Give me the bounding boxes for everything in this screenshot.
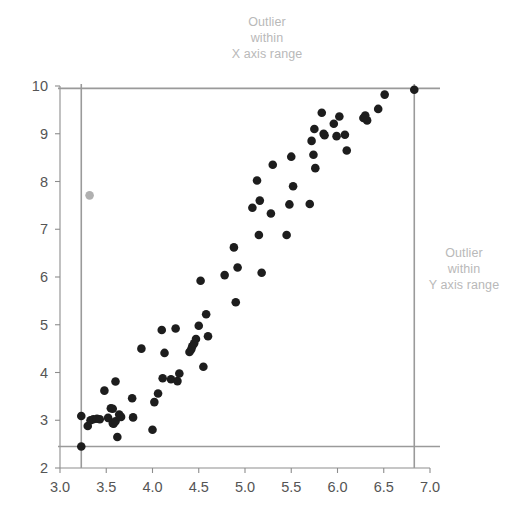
data-point-data-30 xyxy=(175,369,184,378)
data-point-data-26 xyxy=(160,349,169,358)
data-point-data-7 xyxy=(100,386,109,395)
data-point-data-65 xyxy=(332,132,341,141)
data-point-data-73 xyxy=(380,90,389,99)
data-point-data-1 xyxy=(77,442,86,451)
data-point-data-67 xyxy=(341,130,350,139)
data-points-group xyxy=(77,86,419,451)
data-point-data-15 xyxy=(113,433,122,442)
plot-area xyxy=(0,0,520,518)
y-tick-label-4: 6 xyxy=(18,270,48,285)
scatter-plot-figure: Outlier within X axis range Outlier with… xyxy=(0,0,520,518)
data-point-data-47 xyxy=(255,231,264,240)
data-point-data-39 xyxy=(202,310,211,319)
data-point-data-6 xyxy=(95,415,104,424)
x-tick-label-7: 6.5 xyxy=(364,480,404,495)
data-point-data-72 xyxy=(374,105,383,114)
data-point-data-59 xyxy=(310,125,319,134)
data-point-data-20 xyxy=(137,344,146,353)
data-point-data-38 xyxy=(199,362,208,371)
data-point-data-10 xyxy=(108,404,117,413)
data-point-data-57 xyxy=(307,137,316,146)
data-point-data-41 xyxy=(220,271,229,280)
data-point-data-46 xyxy=(253,176,262,185)
x-tick-label-6: 6.0 xyxy=(318,480,358,495)
data-point-data-17 xyxy=(117,413,126,422)
data-point-data-63 xyxy=(320,131,329,140)
data-point-data-36 xyxy=(194,321,203,330)
y-tick-label-2: 4 xyxy=(18,366,48,381)
data-point-data-18 xyxy=(128,394,137,403)
x-tick-label-8: 7.0 xyxy=(410,480,450,495)
data-point-data-19 xyxy=(129,413,138,422)
data-point-data-21 xyxy=(148,426,157,435)
x-tick-label-2: 4.0 xyxy=(133,480,173,495)
y-tick-label-8: 10 xyxy=(18,79,48,94)
data-point-data-25 xyxy=(158,374,167,383)
data-point-data-49 xyxy=(257,268,266,277)
data-point-data-28 xyxy=(171,324,180,333)
data-point-data-22 xyxy=(150,398,159,407)
x-tick-label-4: 5.0 xyxy=(225,480,265,495)
data-point-data-61 xyxy=(317,108,326,117)
data-point-data-29 xyxy=(173,377,182,386)
data-point-data-55 xyxy=(289,182,298,191)
data-point-data-42 xyxy=(230,243,239,252)
data-point-data-64 xyxy=(330,119,339,128)
y-tick-label-5: 7 xyxy=(18,222,48,237)
x-tick-label-1: 3.5 xyxy=(86,480,126,495)
data-point-data-52 xyxy=(282,231,291,240)
data-point-data-66 xyxy=(335,112,344,121)
data-point-data-71 xyxy=(363,116,372,125)
data-point-data-40 xyxy=(204,332,213,341)
data-point-data-35 xyxy=(192,335,201,344)
y-tick-label-1: 3 xyxy=(18,413,48,428)
data-point-data-50 xyxy=(267,209,276,218)
x-tick-label-5: 5.5 xyxy=(271,480,311,495)
data-point-data-45 xyxy=(248,203,257,212)
data-point-data-24 xyxy=(157,326,166,335)
data-point-data-23 xyxy=(154,389,163,398)
data-point-data-58 xyxy=(309,150,318,159)
y-tick-label-0: 2 xyxy=(18,461,48,476)
y-tick-label-6: 8 xyxy=(18,175,48,190)
data-point-data-51 xyxy=(268,160,277,169)
data-point-data-54 xyxy=(287,152,296,161)
data-point-data-74 xyxy=(410,86,419,95)
y-tick-label-7: 9 xyxy=(18,127,48,142)
data-point-data-13 xyxy=(111,377,120,386)
data-point-data-60 xyxy=(311,164,320,173)
data-point-data-43 xyxy=(231,298,240,307)
x-tick-label-3: 4.5 xyxy=(179,480,219,495)
data-point-data-56 xyxy=(305,200,314,209)
data-point-data-53 xyxy=(285,200,294,209)
data-point-data-37 xyxy=(196,277,205,286)
data-point-data-68 xyxy=(342,146,351,155)
data-point-data-0 xyxy=(77,412,86,421)
data-point-data-44 xyxy=(233,263,242,272)
data-point-data-48 xyxy=(255,196,264,205)
x-tick-label-0: 3.0 xyxy=(40,480,80,495)
data-point-outlier-0 xyxy=(85,191,94,200)
y-tick-label-3: 5 xyxy=(18,318,48,333)
